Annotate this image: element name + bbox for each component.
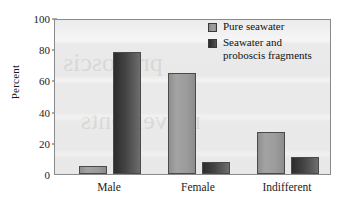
bar-female-proboscis	[202, 162, 230, 174]
x-axis-labels: Male Female Indifferent	[54, 181, 331, 203]
y-tick-label-100: 100	[26, 13, 50, 25]
x-tick-label-male: Male	[97, 181, 121, 193]
y-tick-label-80: 80	[26, 44, 50, 56]
bar-male-pure-seawater	[79, 166, 107, 174]
y-tick-label-60: 60	[26, 75, 50, 87]
x-tick-label-female: Female	[181, 181, 215, 193]
bar-chart-figure: Percent 100 80 60 40 20 0 proboscis move…	[0, 0, 345, 209]
y-axis-ticks: 100 80 60 40 20 0	[26, 0, 50, 209]
bar-male-proboscis	[113, 52, 141, 174]
y-tick-label-40: 40	[26, 107, 50, 119]
x-tick-label-indifferent: Indifferent	[263, 181, 312, 193]
bar-female-pure-seawater	[168, 73, 196, 174]
chart-legend: Pure seawater Seawater and proboscis fra…	[208, 20, 342, 65]
legend-item-proboscis: Seawater and proboscis fragments	[208, 36, 342, 63]
bar-indifferent-proboscis	[291, 157, 319, 174]
legend-swatch-dark-gray-icon	[208, 39, 217, 48]
legend-label-pure-seawater: Pure seawater	[223, 20, 284, 34]
y-tick-label-0: 0	[26, 169, 50, 181]
bar-indifferent-pure-seawater	[257, 132, 285, 174]
legend-swatch-light-gray-icon	[208, 23, 217, 32]
legend-item-pure-seawater: Pure seawater	[208, 20, 342, 34]
legend-label-proboscis: Seawater and proboscis fragments	[223, 36, 312, 63]
y-tick-label-20: 20	[26, 138, 50, 150]
y-axis-title: Percent	[9, 47, 21, 117]
